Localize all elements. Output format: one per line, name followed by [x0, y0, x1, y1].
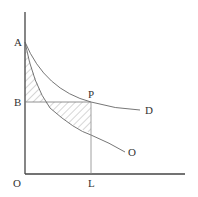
label-o-origin: O	[13, 177, 21, 189]
label-p: P	[88, 88, 94, 100]
label-b: B	[14, 96, 21, 108]
label-l: L	[88, 177, 95, 189]
label-a: A	[14, 36, 22, 48]
label-d: D	[145, 104, 153, 116]
hatched-area-lower-right	[45, 102, 91, 133]
economic-diagram: A B P D O O L	[0, 0, 198, 197]
hatched-area-upper-left	[25, 42, 45, 102]
label-o-curve: O	[128, 146, 136, 158]
